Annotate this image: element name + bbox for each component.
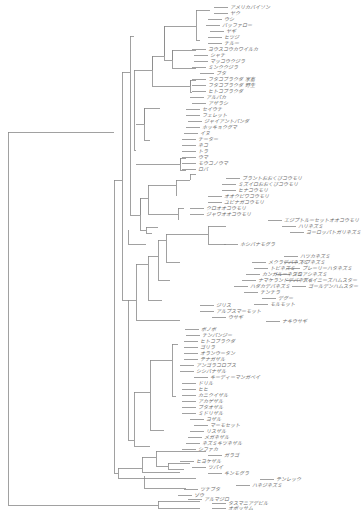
leaf-label: オポッサム bbox=[228, 505, 253, 510]
leaf-label: モルモット bbox=[270, 301, 295, 307]
leaf-label: ナキウサギ bbox=[282, 318, 308, 324]
phylogenetic-tree: アメリカバイソンヤクウシバッファローヤギヒツジチルーヨウスコウカワイルカシャチマ… bbox=[0, 0, 361, 510]
leaf-label: ゴールデンハムスター bbox=[308, 283, 359, 289]
leaf-label: ツパイ bbox=[208, 464, 224, 470]
leaf-label: ハネジネズミ bbox=[252, 482, 282, 488]
leaf-label: ジャワオオコウモリ bbox=[206, 211, 251, 217]
leaf-label: ウサギ bbox=[228, 314, 244, 320]
leaf-label: アルマジロ bbox=[204, 496, 230, 502]
leaf-label: ホシバナモグラ bbox=[240, 241, 275, 247]
leaf-label: シファカ bbox=[198, 446, 219, 452]
tree-leaves: アメリカバイソンヤクウシバッファローヤギヒツジチルーヨウスコウカワイルカシャチマ… bbox=[178, 4, 361, 510]
leaf-label: ガラゴ bbox=[224, 452, 240, 458]
leaf-label: キンモグラ bbox=[224, 470, 249, 476]
leaf-label: ヨーロッパトガリネズミ bbox=[306, 229, 361, 235]
leaf-label: キーディーマンガベイ bbox=[210, 374, 261, 380]
leaf-label: ロバ bbox=[198, 166, 209, 172]
tree-svg: アメリカバイソンヤクウシバッファローヤギヒツジチルーヨウスコウカワイルカシャチマ… bbox=[0, 0, 361, 510]
leaf-label: チンチラ bbox=[260, 289, 280, 295]
